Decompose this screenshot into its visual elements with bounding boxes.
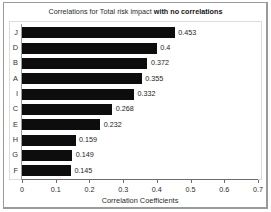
- chart-figure: Correlations for Total risk impact with …: [0, 0, 271, 212]
- x-axis-tick-mark: [22, 180, 23, 183]
- x-axis-tick-label: 0.1: [51, 185, 61, 194]
- x-axis-tick-label: 0.4: [152, 185, 162, 194]
- x-axis-tick-mark: [123, 180, 124, 183]
- x-axis-tick-label: 0.7: [253, 185, 263, 194]
- x-axis-tick-mark: [56, 180, 57, 183]
- x-axis-tick-mark: [191, 180, 192, 183]
- x-axis-tick-label: 0.2: [84, 185, 94, 194]
- x-axis-tick-label: 0.5: [186, 185, 196, 194]
- x-axis-tick-mark: [258, 180, 259, 183]
- x-axis-tick-mark: [224, 180, 225, 183]
- x-axis-tick-mark: [89, 180, 90, 183]
- x-axis-tick-label: 0.3: [118, 185, 128, 194]
- x-axis-title: Correlation Coefficients: [22, 196, 258, 205]
- x-axis-tick-label: 0.6: [219, 185, 229, 194]
- x-axis-tick-mark: [157, 180, 158, 183]
- x-axis-tick-label: 0: [20, 185, 24, 194]
- x-axis-ticks: 00.10.20.30.40.50.60.7: [0, 0, 271, 212]
